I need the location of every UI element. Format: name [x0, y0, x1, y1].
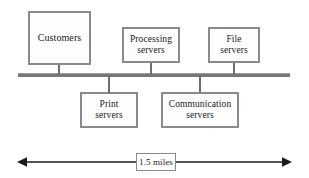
dimension-label-box: 1.5 miles: [136, 153, 176, 171]
node-processing-servers[interactable]: Processing servers: [122, 27, 180, 63]
connector-processing-servers: [150, 63, 152, 75]
connector-print-servers: [108, 75, 110, 93]
node-file-servers[interactable]: File servers: [208, 27, 260, 63]
node-communication-servers[interactable]: Communication servers: [161, 92, 239, 128]
dimension-label-text: 1.5 miles: [139, 157, 173, 167]
node-print-servers-label: Print servers: [93, 99, 125, 121]
dimension-annotation: 1.5 miles: [0, 146, 309, 178]
node-processing-servers-label: Processing servers: [128, 34, 174, 56]
node-customers-label: Customers: [36, 32, 84, 44]
connector-file-servers: [233, 63, 235, 75]
node-customers[interactable]: Customers: [28, 11, 91, 65]
connector-customers: [58, 65, 60, 75]
node-communication-servers-label: Communication servers: [167, 99, 234, 121]
network-bus-diagram: Customers Processing servers File server…: [0, 0, 309, 178]
node-print-servers[interactable]: Print servers: [80, 92, 138, 128]
connector-communication-servers: [199, 75, 201, 93]
node-file-servers-label: File servers: [218, 34, 250, 56]
